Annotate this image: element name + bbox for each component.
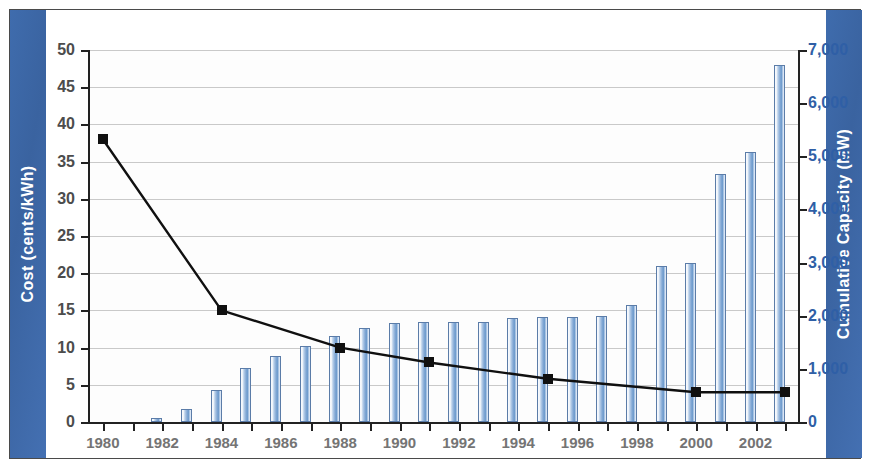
left-axis-tick: [81, 87, 88, 89]
gridline: [88, 162, 800, 163]
x-axis-tick: [726, 424, 728, 431]
gridline: [88, 199, 800, 200]
bar: [537, 317, 548, 422]
bar: [300, 346, 311, 422]
x-axis-tick: [489, 424, 491, 431]
x-axis-tick-label: 1984: [205, 434, 238, 451]
bar: [181, 409, 192, 422]
bar: [448, 322, 459, 422]
left-axis-tick-label: 30: [33, 190, 75, 208]
bar: [359, 328, 370, 422]
x-axis-tick: [578, 424, 580, 431]
x-axis-tick-label: 1990: [383, 434, 416, 451]
left-axis-tick-label: 50: [33, 41, 75, 59]
right-axis-tick: [800, 316, 807, 318]
gridline: [88, 50, 800, 51]
line-marker: [780, 387, 790, 397]
right-axis-tick-label: 4,000: [808, 200, 868, 218]
bar: [507, 318, 518, 422]
right-axis-title-band: Cumulative Capacity (MW): [826, 10, 862, 458]
left-axis-tick-label: 40: [33, 115, 75, 133]
x-axis-tick-label: 2002: [739, 434, 772, 451]
bar: [270, 356, 281, 422]
left-axis-tick-label: 25: [33, 227, 75, 245]
right-axis-tick: [800, 50, 807, 52]
right-axis-tick: [800, 422, 807, 424]
bar: [685, 263, 696, 422]
bar: [211, 390, 222, 422]
x-axis-tick: [637, 424, 639, 431]
x-axis-tick-label: 1996: [561, 434, 594, 451]
right-axis-tick-label: 0: [808, 413, 868, 431]
bar: [774, 65, 785, 422]
right-axis-tick: [800, 369, 807, 371]
x-axis-tick-label: 1986: [264, 434, 297, 451]
line-marker: [691, 387, 701, 397]
left-axis-tick: [81, 236, 88, 238]
x-axis-tick: [340, 424, 342, 431]
left-axis-tick: [81, 310, 88, 312]
x-axis-tick-label: 1992: [442, 434, 475, 451]
x-axis-tick: [696, 424, 698, 431]
x-axis-tick: [222, 424, 224, 431]
x-axis-tick: [103, 424, 105, 431]
bar: [596, 316, 607, 422]
right-axis-tick: [800, 209, 807, 211]
left-axis-tick-label: 0: [33, 413, 75, 431]
right-axis-tick-label: 6,000: [808, 94, 868, 112]
x-axis-tick: [548, 424, 550, 431]
left-axis-tick-label: 15: [33, 301, 75, 319]
bar: [626, 305, 637, 422]
left-axis-tick: [81, 385, 88, 387]
right-axis-tick-label: 2,000: [808, 307, 868, 325]
bar: [240, 368, 251, 422]
x-axis-tick: [459, 424, 461, 431]
left-axis-tick-label: 5: [33, 376, 75, 394]
x-axis-tick: [607, 424, 609, 431]
left-axis-tick: [81, 422, 88, 424]
left-axis-tick: [81, 199, 88, 201]
x-axis-tick: [281, 424, 283, 431]
right-axis-tick-label: 5,000: [808, 147, 868, 165]
x-axis-tick: [429, 424, 431, 431]
x-axis-tick-label: 1982: [145, 434, 178, 451]
left-axis-tick: [81, 162, 88, 164]
left-axis-tick-label: 35: [33, 153, 75, 171]
left-axis-tick: [81, 50, 88, 52]
bar: [715, 174, 726, 422]
x-axis-tick: [133, 424, 135, 431]
x-axis-tick-label: 1988: [323, 434, 356, 451]
wind-cost-capacity-chart: Cost (cents/kWh) Cumulative Capacity (MW…: [0, 0, 872, 475]
bar: [389, 323, 400, 422]
x-axis-tick: [518, 424, 520, 431]
x-axis-tick-label: 2000: [679, 434, 712, 451]
bar: [745, 152, 756, 422]
left-axis-tick: [81, 124, 88, 126]
right-axis-tick-label: 3,000: [808, 254, 868, 272]
left-axis-tick: [81, 348, 88, 350]
x-axis-tick: [400, 424, 402, 431]
x-axis-tick: [251, 424, 253, 431]
plot-area: [88, 50, 800, 422]
x-axis-tick: [370, 424, 372, 431]
bar: [656, 266, 667, 422]
line-marker: [424, 357, 434, 367]
x-axis-line: [88, 422, 801, 424]
bar: [567, 317, 578, 422]
x-axis-tick: [756, 424, 758, 431]
line-marker: [98, 134, 108, 144]
x-axis-tick: [311, 424, 313, 431]
left-axis-tick: [81, 273, 88, 275]
x-axis-tick: [667, 424, 669, 431]
right-axis-tick-label: 7,000: [808, 41, 868, 59]
bar: [478, 322, 489, 422]
line-marker: [217, 305, 227, 315]
gridline: [88, 87, 800, 88]
x-axis-tick-label: 1980: [86, 434, 119, 451]
x-axis-tick-label: 1994: [501, 434, 534, 451]
right-axis-tick: [800, 156, 807, 158]
x-axis-tick: [192, 424, 194, 431]
gridline: [88, 124, 800, 125]
x-axis-tick-label: 1998: [620, 434, 653, 451]
right-axis-tick: [800, 263, 807, 265]
